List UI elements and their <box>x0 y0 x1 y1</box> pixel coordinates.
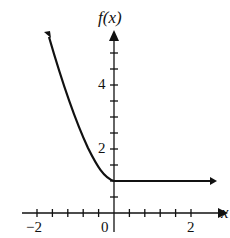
axes <box>22 38 218 232</box>
curve-right-arrow-icon <box>210 177 217 185</box>
y-axis-label: f(x) <box>98 8 122 28</box>
x-tick-label-neg2: −2 <box>26 219 42 236</box>
function-curve <box>44 31 217 185</box>
x-axis-label: x <box>221 203 229 223</box>
x-tick-label-0: 0 <box>101 219 109 236</box>
curve-left-arrow-icon <box>44 31 51 38</box>
y-tick-label-4: 4 <box>98 76 106 93</box>
y-tick-label-2: 2 <box>98 140 106 157</box>
y-axis-arrow-icon <box>109 30 119 41</box>
function-graph <box>0 0 230 238</box>
x-tick-label-2: 2 <box>187 219 195 236</box>
